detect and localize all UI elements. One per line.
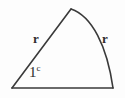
- radius-label-right: r: [102, 32, 108, 45]
- arc-curve: [71, 9, 113, 88]
- radius-label-left: r: [33, 32, 39, 45]
- radius-line-left: [12, 9, 71, 88]
- sector-drawing: [0, 0, 125, 98]
- angle-unit-superscript: c: [37, 63, 41, 73]
- geometry-figure: r r 1c: [0, 0, 125, 98]
- angle-value: 1: [29, 64, 37, 80]
- angle-label: 1c: [29, 65, 41, 80]
